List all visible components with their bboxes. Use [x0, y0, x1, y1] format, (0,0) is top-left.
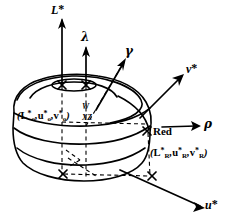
axis-label-rho: ρ [204, 118, 212, 130]
axis-label-L-star: L* [51, 3, 64, 16]
annotation-red-label: Red [153, 126, 172, 137]
axis-label-v-star: v* [186, 62, 197, 75]
solid-contour-3 [17, 148, 145, 165]
dashed-u-guide [68, 158, 96, 176]
dashed-base-horizontal [64, 174, 150, 176]
annotation-origin-coords: (L*o,u*o,v*o) [17, 110, 70, 123]
annotation-xz-marker: XZ [82, 114, 92, 122]
axis-line-v-star [140, 78, 180, 118]
color-solid-diagram: L* λ γ v* ρ u* (L*o,u*o,v*o) W XZ Red (L… [0, 0, 230, 220]
marker-base-right [148, 172, 156, 180]
annotation-red-coords: (L*R,u*R,v*R) [150, 147, 208, 160]
axis-label-u-star: u* [205, 198, 218, 211]
color-solid-blob [13, 74, 151, 181]
solid-contour-2 [14, 126, 150, 144]
annotation-w-marker: W [82, 103, 89, 111]
axis-line-u-star [120, 170, 200, 206]
axis-label-gamma: γ [125, 45, 133, 57]
arrowhead-u-star [193, 202, 205, 212]
axis-label-lambda: λ [81, 31, 89, 43]
dashed-radius-rho [62, 122, 146, 124]
arrowhead-gamma [117, 58, 126, 71]
